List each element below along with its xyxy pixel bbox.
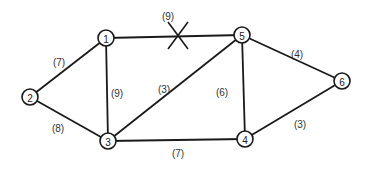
weight-label-3-5: (3) xyxy=(158,84,170,95)
svg-text:4: 4 xyxy=(242,135,248,146)
node-6: 6 xyxy=(334,73,350,89)
edge-3-4 xyxy=(108,139,245,141)
weight-label-4-6: (3) xyxy=(294,119,306,130)
weight-label-1-5: (9) xyxy=(162,11,174,22)
edge-1-3 xyxy=(106,38,108,141)
edge-1-2 xyxy=(30,38,106,97)
node-3: 3 xyxy=(100,133,116,149)
edge-2-3 xyxy=(30,97,108,141)
edge-5-4 xyxy=(242,35,245,139)
edge-4-6 xyxy=(245,81,342,139)
node-4: 4 xyxy=(237,131,253,147)
weight-label-5-4: (6) xyxy=(216,87,228,98)
graph-diagram: (9) (7) (9) (8) (3) (7) (6) (4) (3) 1 2 … xyxy=(0,0,369,169)
svg-text:1: 1 xyxy=(103,34,109,45)
svg-text:5: 5 xyxy=(239,31,245,42)
node-2: 2 xyxy=(22,89,38,105)
node-5: 5 xyxy=(234,27,250,43)
weight-label-2-3: (8) xyxy=(52,123,64,134)
weight-label-1-2: (7) xyxy=(53,57,65,68)
svg-text:3: 3 xyxy=(105,137,111,148)
svg-text:2: 2 xyxy=(27,93,33,104)
node-1: 1 xyxy=(98,30,114,46)
edge-1-5 xyxy=(106,35,242,38)
weight-label-3-4: (7) xyxy=(172,148,184,159)
svg-text:6: 6 xyxy=(339,77,345,88)
weight-label-1-3: (9) xyxy=(111,88,123,99)
weight-label-5-6: (4) xyxy=(291,49,303,60)
